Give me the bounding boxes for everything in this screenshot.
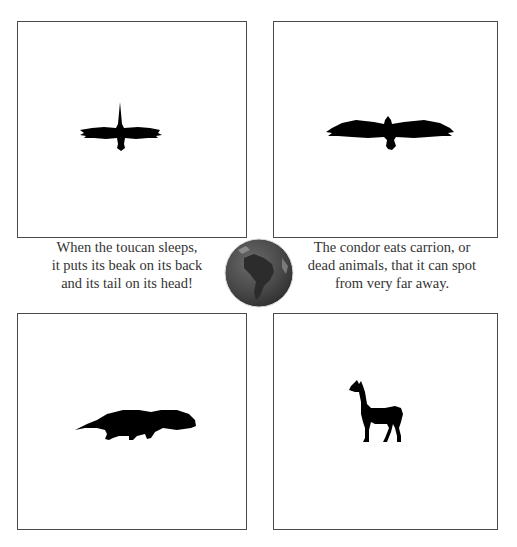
llama-silhouette-icon: [347, 378, 407, 444]
llama-card: [273, 313, 498, 530]
toucan-fact-line3: and its tail on its head!: [28, 274, 226, 292]
condor-fact-line1: The condor eats carrion, or: [290, 238, 494, 256]
condor-fact: The condor eats carrion, or dead animals…: [290, 238, 494, 292]
condor-fact-line2: dead animals, that it can spot: [290, 256, 494, 274]
anteater-card: [17, 313, 247, 530]
toucan-silhouette-icon: [78, 100, 164, 154]
condor-silhouette-icon: [324, 114, 456, 156]
toucan-fact-line2: it puts its beak on its back: [28, 256, 226, 274]
condor-card: [273, 21, 498, 238]
globe-south-america-icon: [224, 238, 294, 308]
toucan-fact-line1: When the toucan sleeps,: [28, 238, 226, 256]
condor-fact-line3: from very far away.: [290, 274, 494, 292]
toucan-fact: When the toucan sleeps, it puts its beak…: [28, 238, 226, 292]
toucan-card: [17, 21, 247, 238]
anteater-silhouette-icon: [73, 406, 199, 442]
